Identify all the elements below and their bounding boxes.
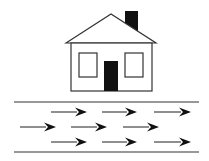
traffic-arrow-icon	[71, 123, 107, 132]
right-window	[125, 53, 143, 77]
road	[14, 102, 199, 152]
traffic-arrow-icon	[51, 108, 87, 117]
traffic-arrow-icon	[102, 108, 137, 117]
left-window	[79, 53, 97, 77]
traffic-arrow-icon	[154, 138, 191, 147]
traffic-arrow-icon	[154, 108, 191, 117]
door	[104, 61, 118, 91]
traffic-arrow-icon	[51, 138, 87, 147]
diagram-canvas	[0, 0, 209, 161]
roof	[66, 14, 156, 43]
house	[66, 11, 156, 91]
traffic-arrow-icon	[20, 123, 56, 132]
traffic-arrow-icon	[123, 123, 159, 132]
traffic-arrow-icon	[102, 138, 137, 147]
